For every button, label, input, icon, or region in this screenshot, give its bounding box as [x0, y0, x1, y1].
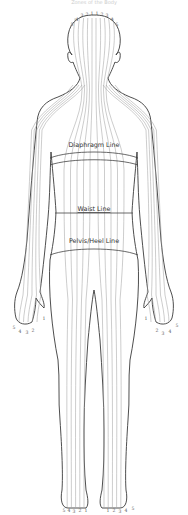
right-hand-zone-5: 5: [176, 323, 179, 328]
right-hand-zone-1: 1: [145, 316, 148, 321]
head-zone-1: 1: [96, 11, 99, 16]
arm-line-right-2: [106, 85, 156, 322]
right-foot-zone-1: 1: [107, 508, 110, 513]
body-outline: [15, 15, 174, 508]
zone-lines: [19, 18, 169, 507]
head-zone-numbers: 5432112345: [71, 11, 119, 27]
arm-line-right-1: [103, 85, 151, 322]
body-zones-diagram: Zones of the Body Diaphragm Line Waist L…: [0, 0, 188, 515]
left-hand-zone-3: 3: [26, 330, 29, 335]
head-zone-2: 2: [101, 12, 104, 17]
left-foot-zone-numbers: 54321: [63, 508, 88, 514]
head-zone-5: 5: [116, 22, 119, 27]
right-hand-zone-3: 3: [162, 331, 165, 336]
zone-line-right-4: [104, 18, 118, 507]
diaphragm-line-upper: [50, 152, 138, 158]
right-foot-zone-5: 5: [132, 506, 135, 511]
right-hand-zone-2: 2: [156, 328, 159, 333]
left-foot-zone-5: 5: [63, 508, 66, 513]
left-hand-zone-numbers: 54321: [13, 316, 46, 335]
diaphragm-line: [50, 160, 138, 165]
left-hand-zone-5: 5: [13, 325, 16, 330]
right-foot-zone-numbers: 12345: [107, 506, 135, 514]
arm-line-left-2: [33, 85, 83, 322]
left-arm-outline: [15, 122, 45, 324]
arm-line-right-3: [109, 85, 160, 322]
head-left-outline: [37, 52, 80, 122]
zone-line-left-4: [71, 18, 85, 507]
head-zone-4: 4: [111, 17, 114, 22]
left-hand-zone-4: 4: [19, 329, 22, 334]
waist-line-label: Waist Line: [78, 205, 111, 213]
head-zone-2: 2: [86, 12, 89, 17]
zone-line-right-1: [96, 18, 104, 507]
pelvis-heel-line: [50, 249, 138, 255]
left-foot-zone-3: 3: [73, 509, 76, 514]
right-hand-zone-4: 4: [169, 329, 172, 334]
arm-line-left-5: [19, 85, 73, 322]
right-foot-zone-2: 2: [113, 508, 116, 513]
head-zone-4: 4: [76, 17, 79, 22]
head-zone-5: 5: [71, 22, 74, 27]
right-hand-zone-numbers: 12345: [145, 316, 179, 336]
head-zone-3: 3: [81, 13, 84, 18]
left-hand-zone-1: 1: [43, 316, 46, 321]
arm-line-left-1: [37, 85, 85, 322]
left-hand-zone-2: 2: [32, 328, 35, 333]
left-foot-zone-1: 1: [85, 508, 88, 513]
zone-line-right-3: [101, 18, 112, 507]
zone-line-left-1: [84, 18, 92, 507]
pelvis-heel-line-label: Pelvis/Heel Line: [69, 237, 119, 245]
right-foot-zone-3: 3: [119, 509, 122, 514]
left-foot-zone-2: 2: [79, 508, 82, 513]
diaphragm-line-label: Diaphragm Line: [69, 141, 120, 149]
head-zone-3: 3: [106, 13, 109, 18]
right-arm-outline: [144, 122, 174, 324]
left-foot-zone-4: 4: [68, 508, 71, 513]
arm-line-right-5: [115, 85, 169, 322]
arm-line-left-3: [28, 85, 79, 322]
zone-line-left-3: [76, 18, 87, 507]
figure-title: Zones of the Body: [71, 0, 117, 6]
right-foot-zone-4: 4: [125, 508, 128, 513]
head-zone-1: 1: [91, 11, 94, 16]
